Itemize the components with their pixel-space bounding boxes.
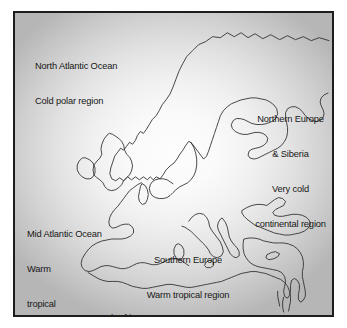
label-northern-europe-siberia: Northern Europe & Siberia Very cold cont…: [239, 91, 334, 253]
label-line: Mid Atlantic Ocean: [27, 229, 102, 241]
label-north-africa: North Africa Hot tropical region: [94, 290, 167, 317]
coastline-nile-valley: [278, 291, 280, 306]
label-line: Cold polar region: [35, 96, 117, 108]
label-line: & Siberia: [239, 149, 334, 161]
label-line: Very cold: [239, 184, 334, 196]
coastline-denmark: [138, 184, 148, 205]
label-line: North Africa: [94, 313, 167, 317]
label-line: Warm: [27, 264, 102, 276]
coastline-ireland: [77, 158, 95, 179]
coastline-baltic-sea: [149, 142, 196, 198]
label-line: North Atlantic Ocean: [35, 61, 117, 73]
climate-map-figure: North Atlantic Ocean Cold polar region N…: [0, 0, 347, 328]
map-frame: North Atlantic Ocean Cold polar region N…: [13, 11, 334, 317]
label-line: tropical: [27, 299, 102, 311]
coastline-red-sea: [283, 297, 284, 312]
label-mid-atlantic-ocean: Mid Atlantic Ocean Warm tropical region: [27, 206, 102, 317]
label-line: Southern Europe: [121, 255, 255, 267]
label-north-atlantic-ocean: North Atlantic Ocean Cold polar region: [35, 38, 117, 131]
label-line: continental region: [239, 219, 334, 231]
label-line: Northern Europe: [239, 114, 334, 126]
